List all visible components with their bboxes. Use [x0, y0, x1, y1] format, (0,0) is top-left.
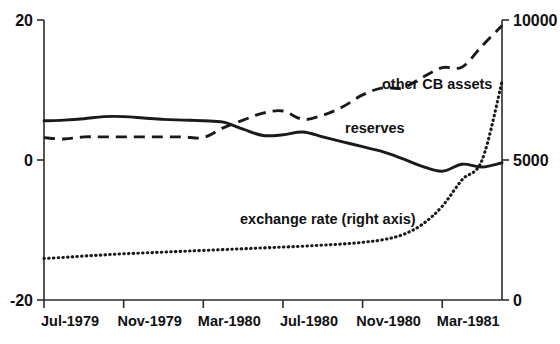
left-tick-label-minus20: -20: [10, 292, 33, 309]
annotation-exchange-rate: exchange rate (right axis): [240, 211, 416, 227]
right-axis-ticks: 10000 5000 0: [502, 12, 558, 309]
right-tick-label-10000: 10000: [513, 12, 558, 29]
right-tick-label-0: 0: [513, 292, 522, 309]
chart-container: 20 0 -20 10000 5000 0 Jul-1979Nov-1979Ma…: [0, 0, 560, 344]
annotation-other-cb-assets: other CB assets: [382, 76, 492, 92]
x-tick-label: Nov-1980: [356, 313, 420, 329]
series-line-reserves: [44, 116, 502, 171]
annotation-reserves: reserves: [345, 120, 405, 136]
left-tick-label-20: 20: [15, 12, 33, 29]
x-axis-ticks: Jul-1979Nov-1979Mar-1980Jul-1980Nov-1980…: [41, 300, 500, 329]
x-tick-label: Mar-1981: [437, 313, 500, 329]
left-axis-ticks: 20 0 -20: [10, 12, 44, 309]
x-tick-label: Nov-1979: [117, 313, 181, 329]
x-tick-label: Mar-1980: [198, 313, 261, 329]
x-tick-label: Jul-1979: [41, 313, 99, 329]
x-tick-label: Jul-1980: [280, 313, 338, 329]
left-tick-label-0: 0: [24, 152, 33, 169]
right-tick-label-5000: 5000: [513, 152, 549, 169]
line-chart: 20 0 -20 10000 5000 0 Jul-1979Nov-1979Ma…: [0, 0, 560, 344]
